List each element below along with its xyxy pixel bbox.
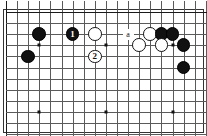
grid-line-horizontal <box>6 123 207 124</box>
star-point <box>104 110 107 113</box>
stone-white[interactable] <box>88 27 102 41</box>
stone-black[interactable] <box>166 27 180 41</box>
star-point <box>171 44 174 47</box>
go-diagram: 12 a <box>0 0 207 136</box>
stone-move-number: 2 <box>89 51 101 63</box>
grid-line-horizontal <box>6 79 207 80</box>
point-label-a: a <box>123 29 134 40</box>
stone-black[interactable] <box>177 38 191 52</box>
grid-line-horizontal <box>6 101 207 102</box>
star-point <box>171 110 174 113</box>
board-frame: 12 a <box>3 9 204 133</box>
grid-line-horizontal <box>6 90 207 91</box>
stone-white[interactable] <box>132 38 146 52</box>
star-point <box>104 44 107 47</box>
stone-black[interactable] <box>177 61 191 75</box>
stone-move-number: 1 <box>67 28 79 40</box>
star-point <box>38 44 41 47</box>
grid-line-horizontal <box>6 56 207 57</box>
stone-white[interactable] <box>155 38 169 52</box>
stone-black[interactable] <box>21 50 35 64</box>
star-point <box>38 110 41 113</box>
stone-black[interactable] <box>32 27 46 41</box>
grid-line-horizontal <box>6 23 207 24</box>
grid-line-horizontal <box>6 134 207 135</box>
stone-white-2[interactable]: 2 <box>88 50 102 64</box>
stone-black-1[interactable]: 1 <box>66 27 80 41</box>
grid-line-horizontal <box>6 12 207 13</box>
